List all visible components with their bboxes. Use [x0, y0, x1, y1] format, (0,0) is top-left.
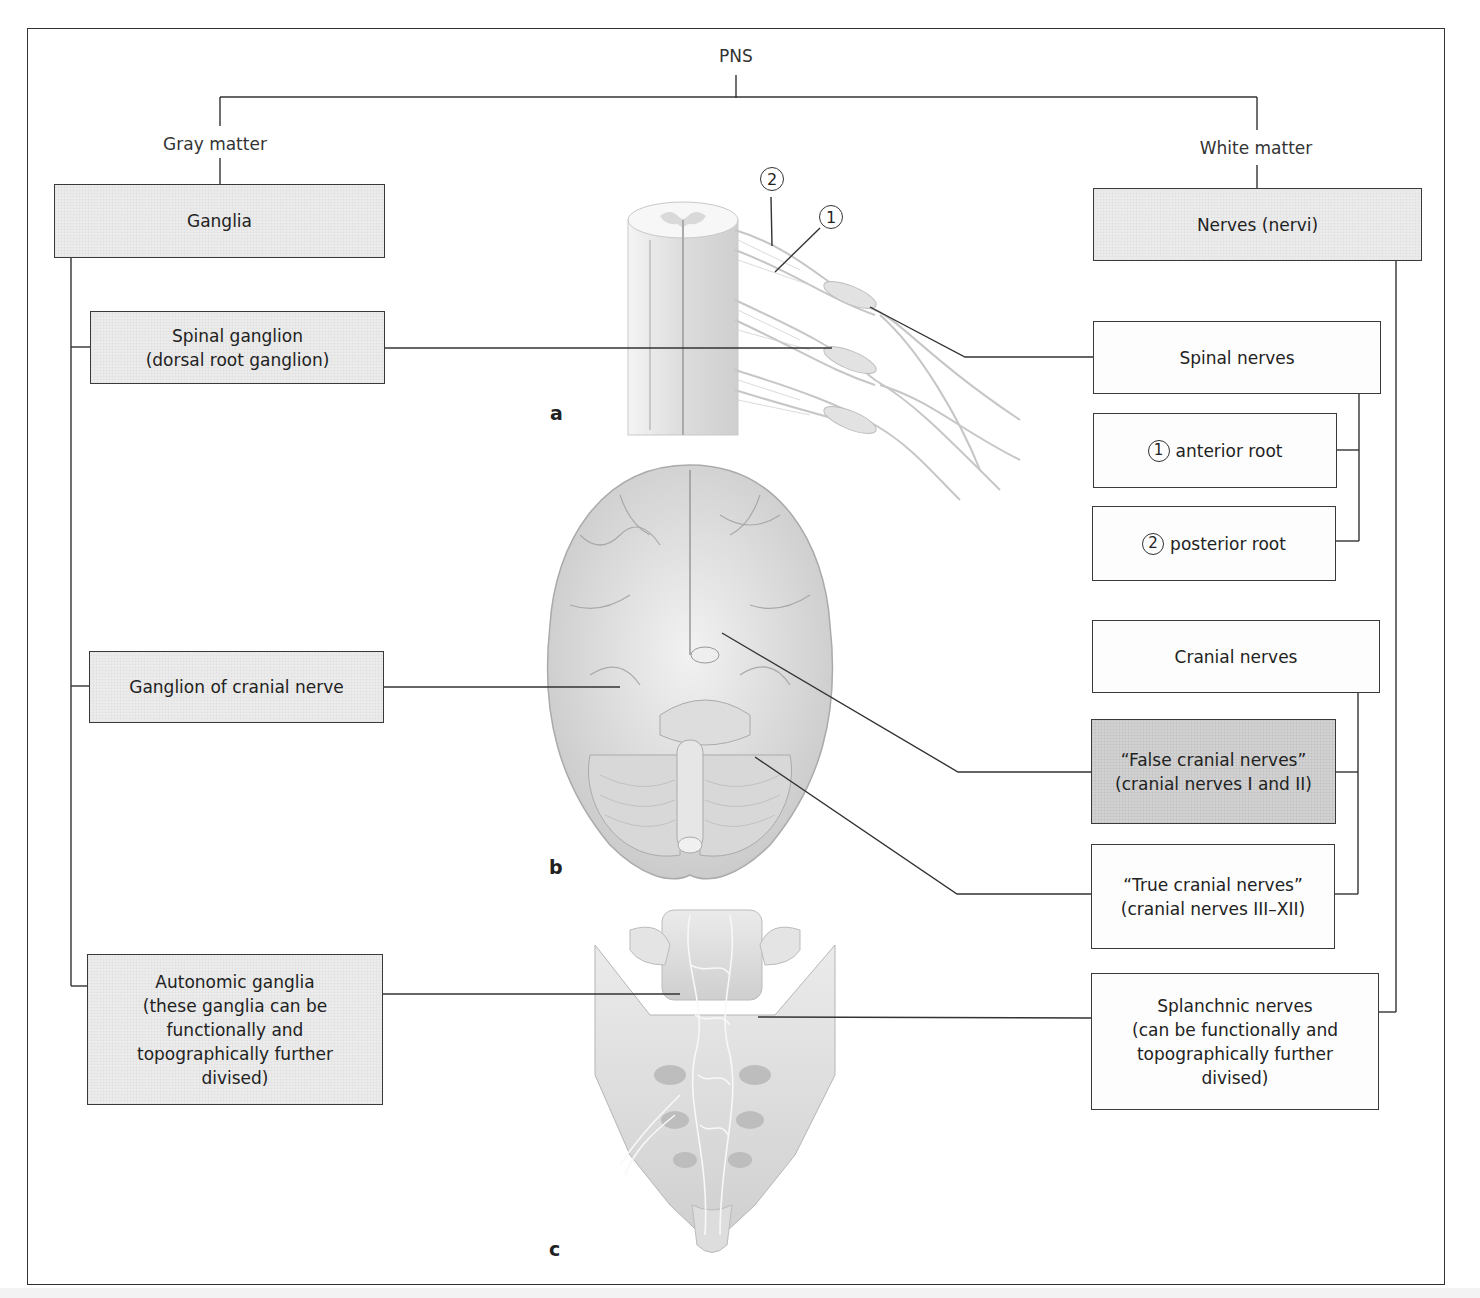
posterior-root-label: posterior root — [1170, 532, 1286, 556]
autonomic-ganglia-box: Autonomic ganglia (these ganglia can be … — [87, 954, 383, 1105]
anterior-root-box: 1 anterior root — [1093, 413, 1337, 488]
marker-1-icon: 1 — [1148, 440, 1170, 462]
figure-letter-c: c — [549, 1238, 560, 1260]
true-cranial-nerves-label: “True cranial nerves” (cranial nerves II… — [1121, 873, 1305, 921]
false-cranial-nerves-box: “False cranial nerves” (cranial nerves I… — [1091, 719, 1336, 824]
anterior-root-label: anterior root — [1176, 439, 1283, 463]
autonomic-ganglia-label: Autonomic ganglia (these ganglia can be … — [137, 970, 333, 1090]
gray-matter-label: Gray matter — [163, 134, 267, 154]
spinal-nerves-label: Spinal nerves — [1179, 346, 1294, 370]
splanchnic-nerves-box: Splanchnic nerves (can be functionally a… — [1091, 973, 1379, 1110]
marker-2-icon: 2 — [1142, 533, 1164, 555]
ganglion-cranial-nerve-label: Ganglion of cranial nerve — [129, 675, 344, 699]
figure-marker-1-icon: 1 — [819, 205, 843, 229]
false-cranial-nerves-label: “False cranial nerves” (cranial nerves I… — [1115, 748, 1312, 796]
nerves-label: Nerves (nervi) — [1197, 213, 1318, 237]
page-bottom-strip — [0, 1288, 1480, 1298]
splanchnic-nerves-label: Splanchnic nerves (can be functionally a… — [1132, 994, 1338, 1090]
sacrum-illustration — [580, 905, 860, 1275]
posterior-root-box: 2 posterior root — [1092, 506, 1336, 581]
ganglia-label: Ganglia — [187, 209, 252, 233]
cranial-nerves-box: Cranial nerves — [1092, 620, 1380, 693]
spinal-ganglion-label: Spinal ganglion (dorsal root ganglion) — [146, 324, 330, 372]
cranial-nerves-label: Cranial nerves — [1175, 645, 1298, 669]
white-matter-label: White matter — [1200, 138, 1313, 158]
brain-illustration — [520, 455, 860, 895]
ganglion-cranial-nerve-box: Ganglion of cranial nerve — [89, 651, 384, 723]
figure-marker-2-icon: 2 — [760, 167, 784, 191]
spinal-nerves-box: Spinal nerves — [1093, 321, 1381, 394]
ganglia-box: Ganglia — [54, 184, 385, 258]
figure-letter-b: b — [549, 856, 563, 878]
spinal-ganglion-box: Spinal ganglion (dorsal root ganglion) — [90, 311, 385, 384]
figure-letter-a: a — [550, 402, 563, 424]
true-cranial-nerves-box: “True cranial nerves” (cranial nerves II… — [1091, 844, 1335, 949]
root-label-pns: PNS — [719, 46, 753, 66]
nerves-box: Nerves (nervi) — [1093, 188, 1422, 261]
